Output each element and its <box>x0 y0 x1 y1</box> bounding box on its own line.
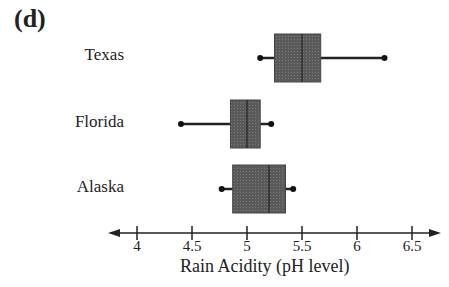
box-alaska <box>233 165 286 213</box>
axis-arrow-left-icon <box>108 229 120 237</box>
x-tick-label: 5.5 <box>293 238 312 255</box>
x-tick-label: 4 <box>133 238 141 255</box>
min-dot-alaska <box>219 186 225 192</box>
x-axis-label: Rain Acidity (pH level) <box>180 256 349 277</box>
box-florida <box>231 100 261 148</box>
boxplot-area <box>0 0 449 287</box>
box-texas <box>275 34 321 82</box>
x-tick-label: 6 <box>353 238 361 255</box>
x-tick-label: 4.5 <box>183 238 202 255</box>
max-dot-florida <box>268 121 274 127</box>
max-dot-alaska <box>290 186 296 192</box>
min-dot-florida <box>178 121 184 127</box>
min-dot-texas <box>257 55 263 61</box>
max-dot-texas <box>382 55 388 61</box>
x-tick-label: 5 <box>243 238 251 255</box>
x-tick-label: 6.5 <box>403 238 422 255</box>
axis-arrow-right-icon <box>429 229 441 237</box>
